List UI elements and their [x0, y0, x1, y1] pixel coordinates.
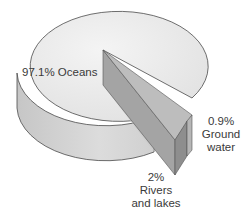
- ground-water-line2: water: [199, 141, 243, 154]
- rivers-percent: 2%: [128, 171, 184, 184]
- pie-chart: [0, 0, 252, 222]
- rivers-line1: Rivers: [128, 184, 184, 197]
- label-rivers-lakes: 2% Rivers and lakes: [128, 171, 184, 210]
- rivers-line2: and lakes: [128, 197, 184, 210]
- ground-water-percent: 0.9%: [199, 115, 243, 128]
- label-ground-water: 0.9% Ground water: [199, 115, 243, 154]
- ground-front: [187, 115, 192, 156]
- label-oceans: 97.1% Oceans: [22, 66, 97, 79]
- ground-water-line1: Ground: [199, 128, 243, 141]
